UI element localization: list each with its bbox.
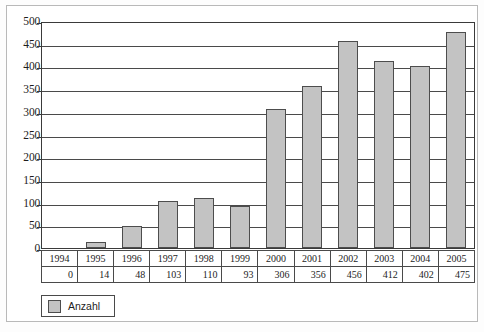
table-cell-value-1999: 93	[222, 267, 258, 283]
bar-2002[interactable]	[338, 41, 359, 248]
y-tickmark-400	[37, 68, 42, 69]
y-axis-tick-300: 300	[6, 107, 40, 119]
table-cell-value-1995: 14	[78, 267, 114, 283]
table-cell-value-2004: 402	[402, 267, 438, 283]
y-axis-tick-labels: 050100150200250300350400450500	[6, 17, 40, 245]
bar-slot-1997	[150, 23, 186, 248]
y-axis-tick-500: 500	[6, 16, 40, 28]
y-axis-tick-250: 250	[6, 130, 40, 142]
bar-slot-2001	[294, 23, 330, 248]
table-cell-year-2003: 2003	[366, 251, 402, 267]
bar-1999[interactable]	[230, 206, 251, 248]
y-tickmark-100	[37, 205, 42, 206]
table-cell-value-2000: 306	[258, 267, 294, 283]
table-cell-year-2002: 2002	[330, 251, 366, 267]
bar-slot-1996	[114, 23, 150, 248]
table-cell-year-2001: 2001	[294, 251, 330, 267]
bar-slot-1999	[222, 23, 258, 248]
bar-1996[interactable]	[122, 226, 143, 248]
chart-legend: Anzahl	[41, 295, 115, 317]
bar-2001[interactable]	[302, 86, 323, 248]
y-axis-tick-450: 450	[6, 39, 40, 51]
table-cell-value-2002: 456	[330, 267, 366, 283]
y-tickmark-300	[37, 114, 42, 115]
table-row-years: 1994199519961997199819992000200120022003…	[42, 251, 475, 267]
bar-slot-2000	[258, 23, 294, 248]
table-cell-year-1995: 1995	[78, 251, 114, 267]
bar-chart-figure: 050100150200250300350400450500 199419951…	[0, 0, 484, 332]
table-cell-year-1999: 1999	[222, 251, 258, 267]
y-axis-tick-400: 400	[6, 62, 40, 74]
y-tickmark-250	[37, 137, 42, 138]
chart-page: 050100150200250300350400450500 199419951…	[0, 0, 484, 332]
bar-2003[interactable]	[374, 61, 395, 248]
bar-series-anzahl	[42, 23, 474, 248]
table-cell-value-2001: 356	[294, 267, 330, 283]
bar-slot-2003	[366, 23, 402, 248]
bar-1997[interactable]	[158, 201, 179, 248]
y-tickmark-450	[37, 46, 42, 47]
y-axis-tick-100: 100	[6, 198, 40, 210]
table-cell-year-2004: 2004	[402, 251, 438, 267]
table-cell-value-2005: 475	[438, 267, 474, 283]
bar-slot-2005	[438, 23, 474, 248]
y-axis-tick-200: 200	[6, 152, 40, 164]
legend-swatch-anzahl	[48, 300, 61, 313]
y-tickmark-500	[37, 23, 42, 24]
bar-slot-2004	[402, 23, 438, 248]
bar-2004[interactable]	[410, 66, 431, 249]
table-cell-value-1996: 48	[114, 267, 150, 283]
table-cell-year-1996: 1996	[114, 251, 150, 267]
table-cell-year-1994: 1994	[42, 251, 78, 267]
bar-1998[interactable]	[194, 198, 215, 248]
table-cell-year-2000: 2000	[258, 251, 294, 267]
y-axis-tick-150: 150	[6, 175, 40, 187]
bar-2005[interactable]	[446, 32, 467, 248]
y-axis-tick-0: 0	[6, 243, 40, 255]
y-tickmark-200	[37, 159, 42, 160]
table-cell-year-1998: 1998	[186, 251, 222, 267]
y-tickmark-150	[37, 182, 42, 183]
table-cell-value-1997: 103	[150, 267, 186, 283]
y-axis-tick-50: 50	[6, 221, 40, 233]
table-cell-value-1998: 110	[186, 267, 222, 283]
table-cell-year-2005: 2005	[438, 251, 474, 267]
data-table: 1994199519961997199819992000200120022003…	[41, 250, 475, 283]
bar-slot-2002	[330, 23, 366, 248]
y-axis-tick-350: 350	[6, 84, 40, 96]
bar-slot-1995	[78, 23, 114, 248]
y-tickmark-50	[37, 227, 42, 228]
y-tickmark-350	[37, 91, 42, 92]
bar-2000[interactable]	[266, 109, 287, 248]
legend-label-anzahl: Anzahl	[68, 301, 100, 312]
plot-area	[41, 22, 475, 249]
table-cell-value-1994: 0	[42, 267, 78, 283]
table-cell-value-2003: 412	[366, 267, 402, 283]
bar-slot-1994	[42, 23, 78, 248]
table-cell-year-1997: 1997	[150, 251, 186, 267]
bar-slot-1998	[186, 23, 222, 248]
table-row-values: 0144810311093306356456412402475	[42, 267, 475, 283]
bar-1995[interactable]	[86, 242, 107, 248]
